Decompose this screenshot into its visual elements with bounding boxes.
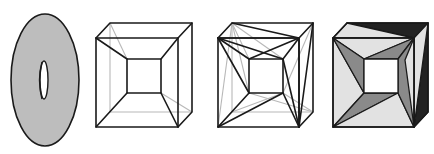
figure [0,0,434,154]
inner-square [127,59,161,93]
wireframe-torus-panel [96,23,192,127]
torus-panel [11,14,79,146]
connector-edge [96,93,127,127]
triangulation-edge [283,59,299,127]
inner-square [249,59,283,93]
triangulated-wireframe-panel [218,23,313,127]
connector-edge [161,38,178,59]
depth-edge [178,23,192,38]
shaded-triangulated-panel [333,23,428,127]
triangulation-edge [218,93,249,127]
triangulation-edge [218,93,283,127]
diagram-canvas [0,0,434,154]
torus-hole [364,59,398,93]
